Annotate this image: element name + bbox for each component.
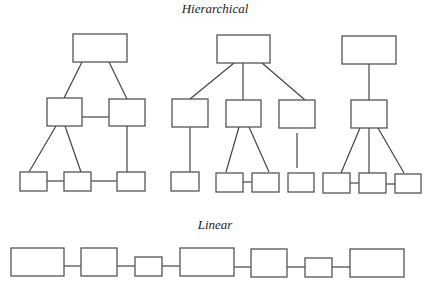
hierarchical-title: Hierarchical — [181, 1, 249, 16]
node — [47, 98, 82, 126]
node — [342, 36, 396, 64]
edge — [29, 126, 56, 172]
node — [171, 172, 199, 191]
edge — [65, 126, 81, 172]
node — [172, 99, 208, 127]
node — [109, 99, 145, 126]
edge — [190, 63, 234, 99]
edge — [109, 62, 127, 99]
node — [288, 173, 314, 192]
tree-2 — [171, 35, 315, 192]
tree-3 — [323, 36, 421, 193]
edge — [249, 127, 269, 172]
node — [351, 100, 387, 128]
node — [359, 173, 386, 193]
node — [73, 34, 127, 62]
node — [216, 173, 243, 192]
edge — [226, 127, 239, 172]
node — [226, 100, 261, 127]
node — [135, 257, 162, 276]
node — [252, 173, 279, 192]
node — [323, 173, 350, 193]
node — [81, 248, 117, 276]
node — [305, 258, 332, 277]
node — [350, 249, 404, 277]
node — [251, 249, 287, 277]
edge — [64, 62, 82, 98]
tree-1 — [20, 34, 145, 191]
linear-title: Linear — [197, 217, 234, 232]
edge — [262, 63, 305, 100]
node — [395, 174, 421, 193]
node — [20, 172, 47, 191]
node — [11, 248, 64, 276]
node — [279, 100, 315, 128]
edge — [341, 128, 360, 173]
node — [180, 248, 234, 276]
linear-chain — [11, 248, 404, 277]
node — [64, 172, 91, 191]
diagram-canvas: Hierarchical Linear — [0, 0, 431, 289]
node — [117, 172, 145, 191]
edge — [378, 128, 404, 173]
node — [217, 35, 270, 63]
